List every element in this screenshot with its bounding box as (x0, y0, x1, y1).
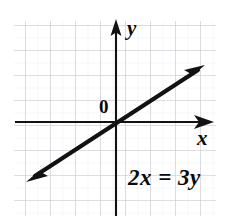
origin-label: 0 (99, 97, 109, 116)
x-axis-label: x (197, 128, 208, 149)
equation-label: 2x = 3y (128, 166, 201, 189)
y-axis (111, 19, 122, 216)
graph-figure: y x 0 2x = 3y (0, 0, 226, 220)
y-axis-label: y (127, 18, 136, 39)
